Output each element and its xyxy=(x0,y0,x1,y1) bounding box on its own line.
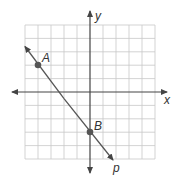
point-a-marker xyxy=(35,62,42,69)
y-axis-label: y xyxy=(95,10,101,22)
point-b-marker xyxy=(87,129,94,136)
x-axis-label: x xyxy=(164,94,170,106)
point-b-label: B xyxy=(94,120,102,132)
point-a-label: A xyxy=(42,52,50,64)
graph-canvas xyxy=(0,0,178,185)
line-p-label: p xyxy=(113,162,120,174)
